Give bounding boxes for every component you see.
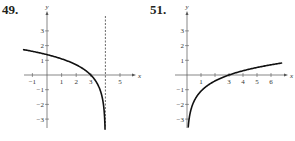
y-tick-label: 3 [41,27,45,35]
x-tick-label: 3 [227,78,231,86]
x-tick-label: 1 [199,78,203,86]
x-tick-label: 2 [74,78,78,86]
x-tick-label: 5 [118,78,122,86]
y-tick-label: −3 [37,116,45,124]
graphs: xy−11235−3−2−1123xy13456−3−2−1123 [0,0,295,141]
x-tick-label: 4 [241,78,245,86]
y-axis-arrow-icon [46,11,49,15]
y-tick-label: 2 [41,42,45,50]
x-axis-label: x [137,72,142,80]
function-curve [188,63,281,127]
y-axis-label: y [185,3,190,11]
y-tick-label: 1 [41,57,45,65]
y-tick-label: 2 [181,42,185,50]
x-tick-label: 6 [269,78,273,86]
y-tick-label: −1 [177,86,185,94]
y-tick-label: −3 [177,116,185,124]
y-axis-label: y [45,3,50,11]
x-axis-arrow-icon [284,74,288,77]
y-tick-label: −2 [37,101,45,109]
x-axis-arrow-icon [132,74,136,77]
x-tick-label: 3 [89,78,93,86]
y-tick-label: −2 [177,101,185,109]
x-tick-label: 1 [60,78,64,86]
y-tick-label: −1 [37,86,45,94]
y-tick-label: 3 [181,27,185,35]
y-axis-arrow-icon [186,11,189,15]
x-tick-label: 5 [255,78,259,86]
x-tick-label: −1 [29,78,37,86]
y-tick-label: 1 [181,57,185,65]
x-axis-label: x [289,72,294,80]
